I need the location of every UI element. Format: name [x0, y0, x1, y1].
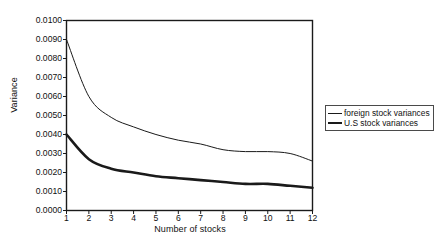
variance-line-chart: Variance 0.00000.00100.00200.00300.00400…: [0, 0, 444, 246]
legend-item: foreign stock variances: [328, 108, 430, 118]
legend-item: U.S stock variances: [328, 118, 430, 128]
x-axis-tick-label: 7: [189, 213, 213, 223]
plot-frame: [67, 21, 313, 211]
x-axis-tick-label: 9: [233, 213, 257, 223]
x-axis-tick-label: 2: [77, 213, 101, 223]
legend-item-label: U.S stock variances: [344, 118, 418, 128]
x-axis-title: Number of stocks: [66, 224, 314, 234]
x-axis-tick-label: 11: [278, 213, 302, 223]
x-axis-tick-label: 8: [211, 213, 235, 223]
x-axis-tick-label: 3: [99, 213, 123, 223]
legend-line-icon: [328, 108, 342, 118]
chart-legend: foreign stock variances U.S stock varian…: [325, 105, 434, 131]
x-axis-tick-label: 12: [301, 213, 325, 223]
legend-item-label: foreign stock variances: [344, 108, 430, 118]
x-axis-tick-label: 4: [122, 213, 146, 223]
x-axis-tick-label: 5: [144, 213, 168, 223]
x-axis-tick-label: 10: [256, 213, 280, 223]
x-axis-tick-label: 6: [166, 213, 190, 223]
x-axis-tick-label: 1: [55, 213, 79, 223]
series-line-thin: [67, 40, 313, 162]
data-series-group: [67, 40, 313, 188]
legend-line-icon: [328, 118, 342, 128]
